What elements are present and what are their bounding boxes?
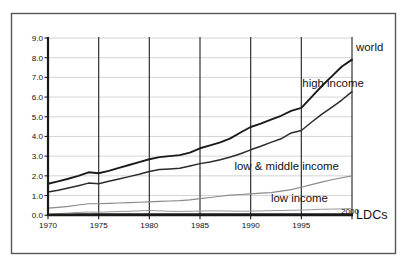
chart-figure: 0.01.02.03.04.05.06.07.08.09.0 197019751… (0, 0, 408, 270)
y-tick-label-2.0: 2.0 (32, 172, 44, 181)
series-label-low-middle-income: low & middle income (234, 160, 338, 172)
series-label-world: world (355, 41, 383, 53)
y-tick-label-6.0: 6.0 (32, 93, 44, 102)
line-chart: 0.01.02.03.04.05.06.07.08.09.0 197019751… (0, 0, 408, 270)
x-tick-label-1980: 1980 (140, 221, 159, 230)
y-tick-label-1.0: 1.0 (32, 192, 44, 201)
y-tick-label-3.0: 3.0 (32, 152, 44, 161)
x-tick-label-1975: 1975 (90, 221, 109, 230)
series-label-ldcs: LDCs (356, 208, 388, 222)
x-tick-label-1995: 1995 (292, 221, 311, 230)
y-tick-label-9.0: 9.0 (32, 34, 44, 43)
x-tick-label-1990: 1990 (242, 221, 261, 230)
y-tick-label-4.0: 4.0 (32, 132, 44, 141)
y-tick-label-0.0: 0.0 (32, 211, 44, 220)
series-label-high-income: high income (302, 77, 363, 89)
y-tick-label-5.0: 5.0 (32, 113, 44, 122)
y-tick-label-8.0: 8.0 (32, 54, 44, 63)
series-label-low-income: low income (271, 192, 328, 204)
figure-border (12, 14, 396, 254)
x-tick-label-1985: 1985 (191, 221, 210, 230)
y-tick-label-7.0: 7.0 (32, 73, 44, 82)
x-tick-label-1970: 1970 (39, 221, 58, 230)
